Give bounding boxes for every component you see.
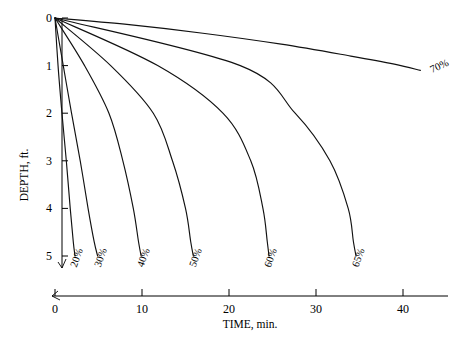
y-tick-label: 1 — [46, 59, 52, 73]
curve-20pct — [55, 18, 75, 256]
curve-label-60pct: 60% — [262, 246, 279, 268]
y-tick-label: 3 — [46, 154, 52, 168]
curve-label-65pct: 65% — [350, 246, 367, 268]
y-tick-label: 4 — [46, 201, 52, 215]
y-tick-label: 0 — [46, 11, 52, 25]
curve-30pct — [55, 18, 98, 256]
y-axis-title: DEPTH, ft. — [18, 149, 31, 202]
curve-label-20pct: 20% — [68, 246, 85, 268]
curve-label-30pct: 30% — [92, 246, 109, 268]
x-axis-title: TIME, min. — [223, 318, 278, 331]
x-tick-label: 0 — [52, 302, 58, 316]
x-tick-label: 40 — [397, 302, 409, 316]
x-axis-ticks: 010203040 — [52, 289, 409, 316]
y-tick-label: 5 — [46, 249, 52, 263]
y-tick-label: 2 — [46, 106, 52, 120]
curve-label-group: 20%30%40%50%60%65%70% — [68, 57, 451, 269]
x-tick-label: 30 — [310, 302, 322, 316]
curve-label-50pct: 50% — [187, 246, 204, 268]
curve-group — [55, 18, 420, 256]
curve-60pct — [55, 18, 269, 256]
curve-70pct — [55, 18, 420, 70]
curve-label-40pct: 40% — [135, 246, 152, 268]
x-tick-label: 20 — [223, 302, 235, 316]
curve-label-70pct: 70% — [428, 57, 450, 75]
curve-65pct — [55, 18, 356, 256]
chart-container: 012345 010203040 20%30%40%50%60%65%70% D… — [0, 0, 472, 341]
depth-vs-time-chart: 012345 010203040 20%30%40%50%60%65%70% D… — [0, 0, 472, 341]
x-tick-label: 10 — [136, 302, 148, 316]
